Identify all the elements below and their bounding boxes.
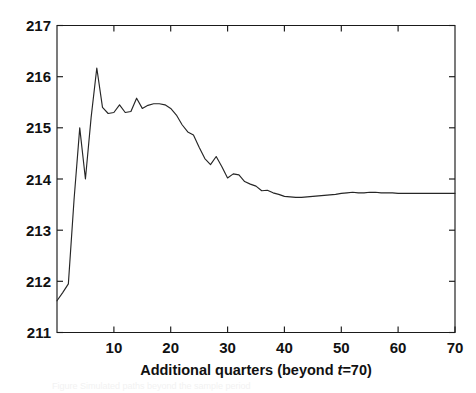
y-axis-ticks — [57, 26, 455, 333]
x-axis-ticks — [114, 26, 455, 333]
x-tick-label-50: 50 — [333, 339, 350, 356]
x-tick-label-60: 60 — [390, 339, 407, 356]
line-chart: 217 216 215 214 213 212 211 10 20 30 40 … — [0, 0, 476, 393]
x-tick-label-30: 30 — [219, 339, 236, 356]
partial-caption-artifact: Figure Simulated paths beyond the sample… — [52, 381, 432, 391]
plot-axes — [57, 26, 455, 333]
figure-page: 217 216 215 214 213 212 211 10 20 30 40 … — [0, 0, 476, 393]
x-axis-title-before: Additional quarters (beyond — [140, 362, 337, 378]
y-tick-labels: 217 216 215 214 213 212 211 — [26, 17, 52, 341]
y-tick-label-214: 214 — [26, 171, 52, 188]
x-axis-title: Additional quarters (beyond t=70) — [140, 362, 372, 378]
y-tick-label-216: 216 — [26, 68, 51, 85]
x-tick-label-20: 20 — [162, 339, 179, 356]
x-tick-label-10: 10 — [106, 339, 123, 356]
x-tick-label-70: 70 — [447, 339, 464, 356]
y-tick-label-211: 211 — [27, 324, 51, 341]
y-tick-label-213: 213 — [26, 222, 51, 239]
chart-svg: 217 216 215 214 213 212 211 10 20 30 40 … — [0, 0, 476, 393]
x-axis-title-after: =70) — [342, 362, 372, 378]
y-tick-label-217: 217 — [26, 17, 51, 34]
axis-frame — [57, 26, 455, 333]
y-tick-label-215: 215 — [26, 119, 51, 136]
x-tick-label-40: 40 — [276, 339, 293, 356]
y-tick-label-212: 212 — [26, 273, 51, 290]
data-series-line — [57, 68, 455, 301]
x-tick-labels: 10 20 30 40 50 60 70 — [106, 339, 464, 356]
